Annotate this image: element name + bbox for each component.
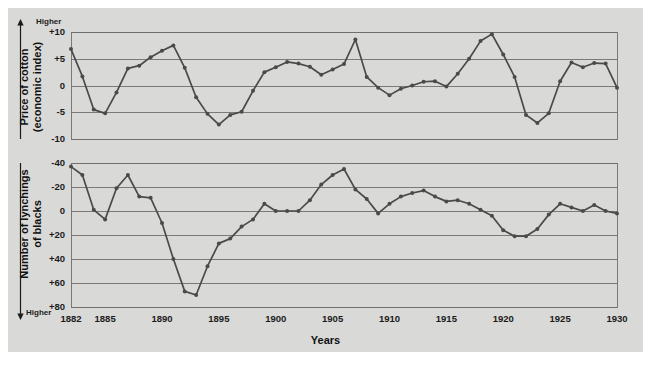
data-point-lynchings: [251, 217, 255, 221]
data-point-cotton-price: [365, 75, 369, 79]
data-point-cotton-price: [422, 80, 426, 84]
data-point-cotton-price: [183, 66, 187, 70]
data-point-lynchings: [592, 203, 596, 207]
data-point-lynchings: [490, 214, 494, 218]
data-point-lynchings: [604, 209, 608, 213]
data-point-cotton-price: [262, 70, 266, 74]
data-point-cotton-price: [535, 121, 539, 125]
data-point-cotton-price: [194, 95, 198, 99]
data-point-lynchings: [331, 173, 335, 177]
x-tick-label-7: 1915: [426, 313, 466, 324]
y-tick-label-lynchings-4: +40: [27, 253, 65, 264]
data-point-lynchings: [433, 195, 437, 199]
data-point-cotton-price: [570, 61, 574, 65]
data-point-lynchings: [285, 209, 289, 213]
data-point-lynchings: [183, 289, 187, 293]
x-tick-label-4: 1900: [256, 313, 296, 324]
data-point-cotton-price: [126, 66, 130, 70]
data-point-lynchings: [103, 217, 107, 221]
y-tick-label-cotton-price-3: -5: [27, 106, 65, 117]
data-point-cotton-price: [297, 62, 301, 66]
y-axis-direction-arrow-lynchings: [17, 314, 23, 321]
data-point-cotton-price: [149, 55, 153, 59]
x-tick-label-10: 1930: [597, 313, 637, 324]
data-point-lynchings: [501, 228, 505, 232]
data-point-lynchings: [240, 225, 244, 229]
data-point-cotton-price: [558, 79, 562, 83]
data-point-lynchings: [297, 209, 301, 213]
data-point-lynchings: [171, 257, 175, 261]
y-tick-label-cotton-price-4: -10: [27, 133, 65, 144]
data-point-cotton-price: [240, 110, 244, 114]
data-point-cotton-price: [388, 93, 392, 97]
data-point-cotton-price: [274, 65, 278, 69]
data-point-lynchings: [342, 167, 346, 171]
x-tick-label-9: 1925: [540, 313, 580, 324]
data-point-lynchings: [80, 173, 84, 177]
data-point-lynchings: [513, 234, 517, 238]
data-point-lynchings: [69, 165, 73, 169]
data-point-cotton-price: [581, 65, 585, 69]
data-point-cotton-price: [137, 64, 141, 68]
data-point-lynchings: [160, 221, 164, 225]
data-point-cotton-price: [160, 49, 164, 53]
data-point-cotton-price: [206, 112, 210, 116]
data-point-lynchings: [456, 198, 460, 202]
data-line-cotton-price: [71, 34, 617, 124]
data-point-lynchings: [547, 213, 551, 217]
data-point-lynchings: [570, 205, 574, 209]
data-point-lynchings: [126, 173, 130, 177]
data-point-cotton-price: [103, 111, 107, 115]
data-point-lynchings: [365, 197, 369, 201]
data-point-cotton-price: [399, 87, 403, 91]
data-point-cotton-price: [444, 85, 448, 89]
y-tick-label-lynchings-0: -40: [27, 157, 65, 168]
data-point-cotton-price: [228, 113, 232, 117]
x-tick-label-1: 1885: [85, 313, 125, 324]
data-point-lynchings: [615, 211, 619, 215]
data-point-cotton-price: [479, 39, 483, 43]
data-point-lynchings: [558, 202, 562, 206]
y-tick-label-lynchings-2: 0: [27, 205, 65, 216]
data-point-cotton-price: [433, 79, 437, 83]
data-point-cotton-price: [353, 37, 357, 41]
data-point-cotton-price: [604, 62, 608, 66]
data-point-lynchings: [149, 196, 153, 200]
data-point-lynchings: [479, 208, 483, 212]
data-point-lynchings: [535, 227, 539, 231]
data-point-lynchings: [410, 191, 414, 195]
chart-lynchings: [69, 163, 619, 308]
data-point-cotton-price: [342, 62, 346, 66]
y-tick-label-cotton-price-0: +10: [27, 26, 65, 37]
data-point-cotton-price: [331, 67, 335, 71]
data-point-cotton-price: [467, 57, 471, 61]
data-point-cotton-price: [592, 61, 596, 65]
y-tick-label-lynchings-6: +80: [27, 301, 65, 312]
data-point-lynchings: [206, 264, 210, 268]
data-point-cotton-price: [501, 52, 505, 56]
data-point-lynchings: [399, 195, 403, 199]
figure-root: Price of cotton (economic index) Higher …: [0, 0, 651, 370]
data-point-lynchings: [228, 237, 232, 241]
data-line-lynchings: [71, 167, 617, 295]
data-point-cotton-price: [69, 47, 73, 51]
data-point-lynchings: [92, 208, 96, 212]
y-axis-direction-arrow-cotton-price: [17, 19, 23, 26]
data-point-cotton-price: [217, 123, 221, 127]
plot-area-lynchings: [71, 163, 617, 307]
data-point-cotton-price: [615, 86, 619, 90]
data-point-cotton-price: [308, 65, 312, 69]
x-tick-label-8: 1920: [483, 313, 523, 324]
y-tick-label-cotton-price-1: +5: [27, 53, 65, 64]
data-point-cotton-price: [80, 74, 84, 78]
x-tick-label-3: 1895: [199, 313, 239, 324]
data-point-cotton-price: [115, 90, 119, 94]
data-point-cotton-price: [456, 72, 460, 76]
data-point-lynchings: [308, 198, 312, 202]
data-point-lynchings: [353, 187, 357, 191]
data-point-lynchings: [467, 202, 471, 206]
y-tick-label-lynchings-1: -20: [27, 181, 65, 192]
data-point-lynchings: [194, 293, 198, 297]
chart-cotton-price: [69, 32, 619, 140]
data-point-cotton-price: [513, 75, 517, 79]
